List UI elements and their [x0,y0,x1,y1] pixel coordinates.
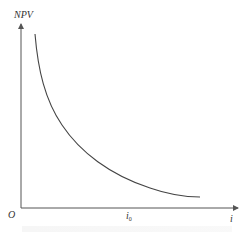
y-axis-label: NPV [13,9,35,20]
origin-label: O [8,209,15,220]
tick-i0-label: i0 [126,210,132,222]
npv-chart: NPV O i i0 [0,0,248,236]
faint-caption [22,226,232,232]
x-axis-label: i [230,213,233,224]
npv-curve [35,34,200,197]
